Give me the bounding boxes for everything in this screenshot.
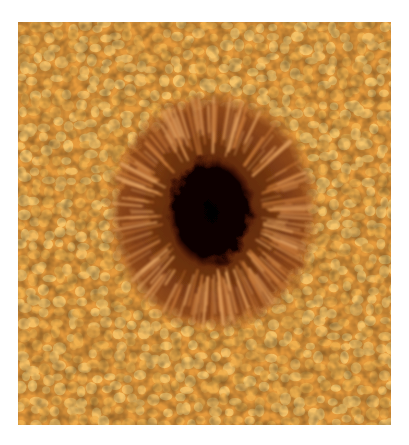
penumbra-filament	[214, 276, 215, 314]
penumbra-filament	[209, 118, 210, 138]
sunspot-photo	[18, 22, 391, 425]
penumbra-filament	[215, 106, 216, 142]
penumbra-filament	[280, 213, 312, 214]
umbra	[167, 156, 255, 268]
